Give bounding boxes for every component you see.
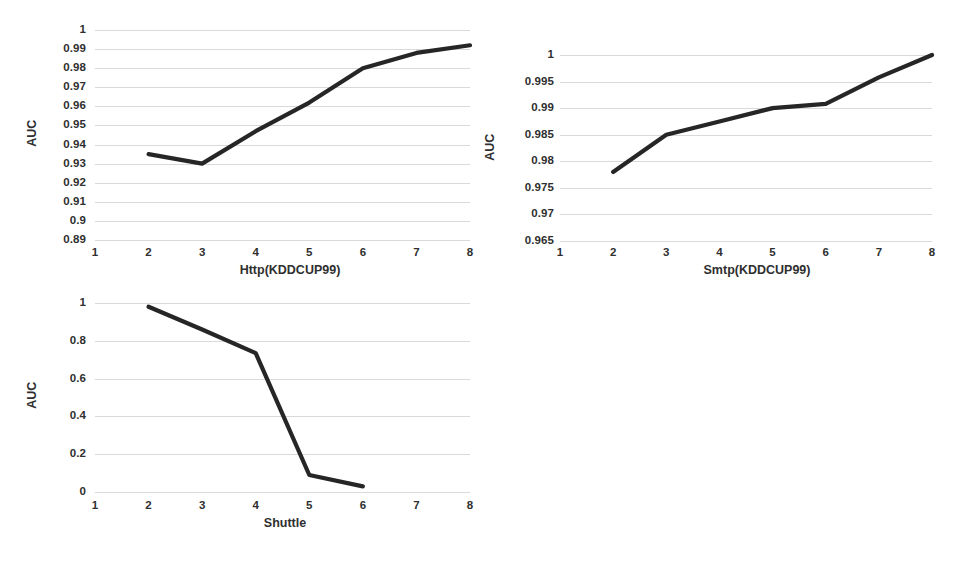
y-axis-tick-label: 0.97 [531,209,554,221]
x-axis-tick-label: 7 [413,247,419,259]
y-axis-tick-label: 0.99 [531,102,554,114]
y-axis-tick-label: 0.93 [63,158,86,170]
chart-panel-http: AUC 10.990.980.970.960.950.940.930.920.9… [0,0,490,282]
y-axis-tick-label: 0.98 [531,156,554,168]
y-axis-tick-label: 0.2 [70,448,86,460]
x-axis-tick-label: 6 [360,500,366,512]
x-axis-tick-label: 1 [557,247,563,259]
y-axis-tick-label: 0.4 [70,411,86,423]
y-axis-tick-label: 1 [80,24,87,36]
plot-svg-shuttle [95,303,470,492]
y-axis-tick-label: 0 [80,486,87,498]
series-line-http [149,45,470,163]
gridlines-http [95,31,470,241]
x-axis-tick-label: 8 [467,500,473,512]
plot-area-smtp [560,55,932,241]
x-axis-tick-label: 4 [716,247,722,259]
x-axis-tick-label: 5 [306,247,312,259]
x-axis-ticks-http: 12345678 [95,247,470,261]
y-axis-tick-label: 0.985 [525,129,554,141]
plot-area-shuttle [95,303,470,492]
y-axis-tick-label: 0.98 [63,62,86,74]
x-axis-tick-label: 4 [253,247,259,259]
x-axis-title-smtp: Smtp(KDDCUP99) [647,264,867,277]
x-axis-tick-label: 2 [145,247,151,259]
x-axis-tick-label: 7 [876,247,882,259]
x-axis-tick-label: 7 [413,500,419,512]
series-line-smtp [613,55,932,172]
y-axis-tick-label: 0.96 [63,101,86,113]
y-axis-tick-label: 1 [80,297,87,309]
y-axis-tick-label: 0.97 [63,82,86,94]
x-axis-tick-label: 3 [199,500,205,512]
y-axis-tick-label: 0.94 [63,139,86,151]
x-axis-tick-label: 4 [253,500,259,512]
y-axis-tick-label: 0.995 [525,76,554,88]
series-line-shuttle [149,307,363,487]
y-axis-tick-label: 0.99 [63,43,86,55]
gridlines-shuttle [95,304,470,493]
x-axis-tick-label: 8 [929,247,935,259]
y-axis-tick-label: 0.9 [70,215,86,227]
x-axis-tick-label: 1 [92,247,98,259]
y-axis-tick-label: 0.95 [63,120,86,132]
y-axis-tick-label: 0.89 [63,234,86,246]
plot-area-http [95,30,470,240]
y-axis-ticks-shuttle: 10.80.60.40.20 [34,303,86,492]
x-axis-title-http: Http(KDDCUP99) [180,264,400,277]
x-axis-tick-label: 2 [610,247,616,259]
y-axis-tick-label: 0.8 [70,335,86,347]
y-axis-tick-label: 0.965 [525,235,554,247]
chart-panel-smtp: AUC 10.9950.990.9850.980.9750.970.965 12… [472,0,962,282]
y-axis-tick-label: 0.92 [63,177,86,189]
x-axis-tick-label: 3 [663,247,669,259]
x-axis-title-shuttle: Shuttle [185,517,385,530]
x-axis-ticks-shuttle: 12345678 [95,500,470,514]
plot-svg-smtp [560,55,932,241]
x-axis-ticks-smtp: 12345678 [560,247,932,261]
x-axis-tick-label: 1 [92,500,98,512]
y-axis-ticks-http: 10.990.980.970.960.950.940.930.920.910.9… [34,30,86,240]
chart-panel-shuttle: AUC 10.80.60.40.20 12345678 Shuttle [0,282,490,561]
y-axis-tick-label: 0.91 [63,196,86,208]
gridlines-smtp [560,56,932,242]
x-axis-tick-label: 5 [306,500,312,512]
y-axis-tick-label: 0.6 [70,373,86,385]
x-axis-tick-label: 6 [360,247,366,259]
plot-svg-http [95,30,470,240]
x-axis-tick-label: 3 [199,247,205,259]
x-axis-tick-label: 2 [145,500,151,512]
y-axis-ticks-smtp: 10.9950.990.9850.980.9750.970.965 [492,55,554,241]
x-axis-tick-label: 6 [823,247,829,259]
y-axis-tick-label: 1 [548,49,555,61]
x-axis-tick-label: 5 [769,247,775,259]
y-axis-tick-label: 0.975 [525,182,554,194]
